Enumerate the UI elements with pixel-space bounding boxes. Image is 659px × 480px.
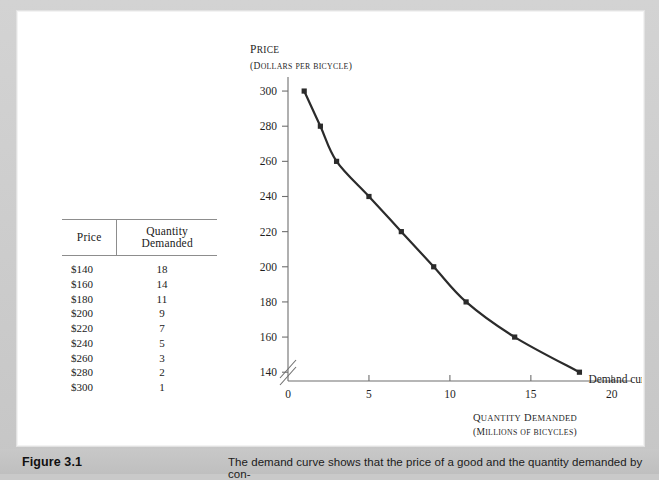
- y-axis-tick-label: 160: [260, 331, 278, 343]
- cell-quantity: 1: [117, 380, 217, 395]
- cell-price: $280: [62, 365, 117, 380]
- cell-quantity: 11: [117, 291, 217, 306]
- demand-curve-annotation: Demand curve: [588, 373, 642, 385]
- y-axis-ticks: 140160180200220240260280300: [260, 85, 288, 378]
- demand-curve-markers: [302, 88, 582, 374]
- table-row: $2603: [62, 350, 217, 365]
- y-axis-tick-label: 280: [260, 120, 278, 132]
- demand-curve-series: [304, 91, 579, 372]
- data-point-marker: [399, 229, 404, 234]
- x-axis-tick-label: 10: [444, 388, 456, 400]
- x-axis-tick-label: 0: [285, 388, 291, 400]
- figure-number: Figure 3.1: [22, 455, 82, 469]
- y-axis-tick-label: 200: [260, 261, 278, 273]
- figure-caption-text: The demand curve shows that the price of…: [228, 456, 659, 480]
- content-panel: Price Quantity Demanded $14018$16014$180…: [16, 10, 645, 447]
- table-body: $14018$16014$18011$2009$2207$2405$2603$2…: [62, 256, 217, 395]
- data-point-marker: [302, 88, 307, 93]
- cell-quantity: 9: [117, 306, 217, 321]
- table-row: $16014: [62, 276, 217, 291]
- demand-schedule-table: Price Quantity Demanded $14018$16014$180…: [62, 219, 217, 395]
- column-header-price: Price: [62, 220, 117, 256]
- y-axis-tick-label: 260: [260, 155, 278, 167]
- x-axis-ticks: 05101520: [285, 375, 618, 400]
- x-axis-tick-label: 20: [606, 388, 618, 400]
- data-point-marker: [334, 159, 339, 164]
- y-axis-title: PRICE: [250, 43, 279, 55]
- cell-quantity: 7: [117, 321, 217, 336]
- table-row: $14018: [62, 256, 217, 277]
- cell-quantity: 14: [117, 276, 217, 291]
- cell-quantity: 5: [117, 336, 217, 351]
- table-row: $2405: [62, 336, 217, 351]
- cell-price: $160: [62, 276, 117, 291]
- y-axis-tick-label: 300: [260, 85, 278, 97]
- cell-price: $140: [62, 256, 117, 277]
- table-header-row: Price Quantity Demanded: [62, 220, 217, 256]
- x-axis-title: QUANTITY DEMANDED: [473, 412, 577, 423]
- data-point-marker: [431, 264, 436, 269]
- cell-price: $260: [62, 350, 117, 365]
- table: Price Quantity Demanded $14018$16014$180…: [62, 219, 217, 395]
- cell-price: $300: [62, 380, 117, 395]
- data-point-marker: [366, 194, 371, 199]
- table-row: $3001: [62, 380, 217, 395]
- cell-price: $200: [62, 306, 117, 321]
- data-point-marker: [464, 299, 469, 304]
- table-row: $2802: [62, 365, 217, 380]
- table-row: $2009: [62, 306, 217, 321]
- chart-svg: PRICE (DOLLARS PER BICYCLE) QUANTITY DEM…: [242, 33, 642, 443]
- y-axis-tick-label: 180: [260, 296, 278, 308]
- cell-quantity: 3: [117, 350, 217, 365]
- x-axis-tick-label: 15: [525, 388, 537, 400]
- data-point-marker: [577, 370, 582, 375]
- x-axis-tick-label: 5: [366, 388, 372, 400]
- cell-price: $240: [62, 336, 117, 351]
- y-axis-tick-label: 220: [260, 226, 278, 238]
- demand-curve-chart: PRICE (DOLLARS PER BICYCLE) QUANTITY DEM…: [242, 33, 642, 443]
- table-row: $2207: [62, 321, 217, 336]
- table-header: Price Quantity Demanded: [62, 220, 217, 256]
- demand-curve-line: [304, 91, 579, 372]
- y-axis-tick-label: 240: [260, 190, 278, 202]
- y-axis-tick-label: 140: [260, 366, 278, 378]
- cell-quantity: 2: [117, 365, 217, 380]
- x-axis-subtitle: (MILLIONS OF BICYCLES): [473, 427, 577, 438]
- column-header-quantity: Quantity Demanded: [117, 220, 217, 256]
- data-point-marker: [318, 124, 323, 129]
- cell-price: $180: [62, 291, 117, 306]
- data-point-marker: [512, 334, 517, 339]
- y-axis-subtitle: (DOLLARS PER BICYCLE): [250, 61, 352, 72]
- table-row: $18011: [62, 291, 217, 306]
- cell-price: $220: [62, 321, 117, 336]
- cell-quantity: 18: [117, 256, 217, 277]
